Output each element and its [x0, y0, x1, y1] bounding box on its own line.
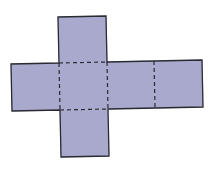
face-left	[11, 63, 60, 111]
face-bottom	[60, 109, 109, 157]
face-top	[58, 16, 107, 63]
face-center	[59, 62, 108, 110]
cube-net-diagram	[0, 0, 216, 170]
face-right-2	[154, 60, 203, 108]
face-right-1	[107, 61, 155, 109]
